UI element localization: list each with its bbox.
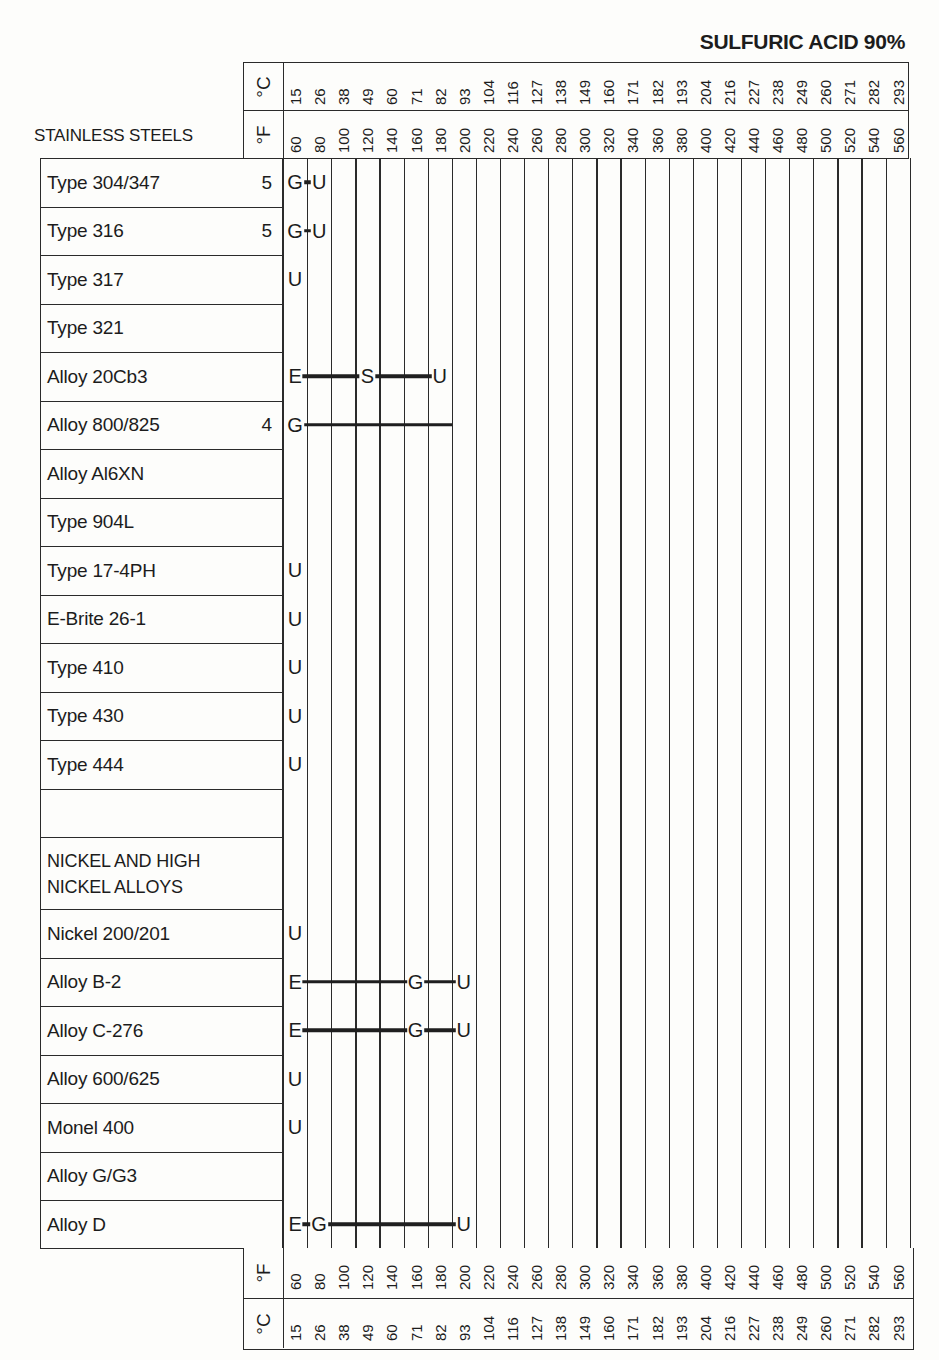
rating-letter: U (287, 657, 303, 677)
fahrenheit-tick-label: 320 (601, 1265, 617, 1290)
material-row: Type 444 (41, 740, 282, 789)
celsius-tick-label: 160 (601, 1316, 617, 1341)
material-label-column: Type 304/3475Type 3165Type 317Type 321Al… (40, 158, 283, 1249)
material-name: Type 316 (47, 220, 124, 242)
celsius-tick-label: 182 (650, 80, 666, 105)
fahrenheit-tick-label: 160 (409, 128, 425, 153)
grid-line (404, 158, 405, 1249)
bottom-celsius-ticks: 1526384960718293104116127138149160171182… (284, 1299, 913, 1348)
fahrenheit-tick-label: 560 (891, 1265, 907, 1290)
fahrenheit-tick-label: 420 (722, 1265, 738, 1290)
celsius-tick-label: 82 (433, 1324, 449, 1341)
rating-letter: U (311, 221, 327, 241)
bottom-fahrenheit-ticks: 6080100120140160180200220240260280300320… (284, 1248, 913, 1298)
celsius-tick-label: 293 (891, 80, 907, 105)
celsius-tick-label: 15 (288, 1324, 304, 1341)
fahrenheit-tick-label: 140 (384, 128, 400, 153)
fahrenheit-tick-label: 440 (746, 128, 762, 153)
celsius-tick-label: 204 (698, 1316, 714, 1341)
material-row: Type 430 (41, 692, 282, 741)
celsius-tick-label: 93 (457, 1324, 473, 1341)
celsius-tick-label: 38 (336, 88, 352, 105)
celsius-tick-label: 216 (722, 1316, 738, 1341)
rating-letter: U (287, 560, 303, 580)
fahrenheit-tick-label: 400 (698, 1265, 714, 1290)
fahrenheit-tick-label: 320 (601, 128, 617, 153)
fahrenheit-tick-label: 200 (457, 128, 473, 153)
grid-line (837, 158, 838, 1249)
fahrenheit-unit-cell-bottom: °F (244, 1248, 284, 1298)
celsius-tick-label: 260 (818, 80, 834, 105)
footnote-number: 5 (261, 220, 272, 242)
material-name: Type 17-4PH (47, 560, 156, 582)
material-name: Type 304/347 (47, 172, 160, 194)
celsius-tick-label: 193 (674, 80, 690, 105)
rating-letter: U (287, 269, 303, 289)
fahrenheit-tick-label: 160 (409, 1265, 425, 1290)
fahrenheit-tick-label: 240 (505, 128, 521, 153)
top-axis-header: °C 1526384960718293104116127138149160171… (243, 62, 909, 159)
rating-letter: U (456, 1020, 472, 1040)
top-fahrenheit-row: °F 6080100120140160180200220240260280300… (244, 111, 908, 158)
material-name: Alloy 600/625 (47, 1068, 160, 1090)
fahrenheit-tick-label: 500 (818, 128, 834, 153)
grid-line (741, 158, 742, 1249)
material-name: Type 410 (47, 657, 124, 679)
grid-line (669, 158, 670, 1249)
celsius-tick-label: 26 (312, 88, 328, 105)
chart-title: SULFURIC ACID 90% (700, 30, 905, 54)
blank-row (41, 789, 282, 838)
bottom-celsius-row: °C 1526384960718293104116127138149160171… (244, 1299, 913, 1348)
celsius-tick-label: 38 (336, 1324, 352, 1341)
fahrenheit-unit-cell: °F (244, 111, 284, 158)
celsius-tick-label: 227 (746, 80, 762, 105)
celsius-tick-label: 293 (891, 1316, 907, 1341)
fahrenheit-tick-label: 80 (312, 1273, 328, 1290)
grid-line (548, 158, 549, 1249)
grid-line (307, 158, 308, 1249)
fahrenheit-tick-label: 240 (505, 1265, 521, 1290)
material-row: Nickel 200/201 (41, 909, 282, 958)
bottom-axis-header: °F 6080100120140160180200220240260280300… (243, 1248, 914, 1350)
grid-line (572, 158, 573, 1249)
celsius-tick-label: 216 (722, 80, 738, 105)
fahrenheit-unit-label-bottom: °F (253, 1263, 275, 1282)
material-name: Type 904L (47, 511, 134, 533)
fahrenheit-tick-label: 380 (674, 128, 690, 153)
fahrenheit-tick-label: 500 (818, 1265, 834, 1290)
bottom-fahrenheit-row: °F 6080100120140160180200220240260280300… (244, 1248, 913, 1299)
group-heading-row: NICKEL AND HIGHNICKEL ALLOYS (41, 837, 282, 909)
fahrenheit-tick-label: 480 (794, 128, 810, 153)
material-name: Type 444 (47, 754, 124, 776)
fahrenheit-tick-label: 140 (384, 1265, 400, 1290)
grid-line (620, 158, 621, 1249)
group-heading-line: NICKEL AND HIGH (47, 848, 200, 874)
material-row: Type 317 (41, 255, 282, 304)
grid-line (283, 158, 284, 1249)
grid-line (910, 158, 911, 1249)
fahrenheit-tick-label: 440 (746, 1265, 762, 1290)
material-row: Type 321 (41, 304, 282, 353)
material-name: Alloy Al6XN (47, 463, 144, 485)
material-row: Type 304/3475 (41, 158, 282, 207)
rating-letter: E (287, 972, 302, 992)
celsius-tick-label: 238 (770, 1316, 786, 1341)
rating-letter: U (287, 754, 303, 774)
fahrenheit-tick-label: 100 (336, 128, 352, 153)
grid-line (789, 158, 790, 1249)
material-name: Alloy G/G3 (47, 1165, 137, 1187)
fahrenheit-tick-label: 200 (457, 1265, 473, 1290)
material-name: Monel 400 (47, 1117, 134, 1139)
material-row: Alloy 600/625 (41, 1055, 282, 1104)
rating-letter: U (456, 1214, 472, 1234)
celsius-tick-label: 271 (842, 1316, 858, 1341)
celsius-tick-label: 271 (842, 80, 858, 105)
celsius-tick-label: 182 (650, 1316, 666, 1341)
material-row: Alloy G/G3 (41, 1152, 282, 1201)
fahrenheit-tick-label: 100 (336, 1265, 352, 1290)
fahrenheit-tick-label: 460 (770, 1265, 786, 1290)
fahrenheit-tick-label: 560 (891, 128, 907, 153)
rating-range-bar (301, 423, 452, 427)
fahrenheit-tick-label: 360 (650, 128, 666, 153)
fahrenheit-tick-label: 360 (650, 1265, 666, 1290)
